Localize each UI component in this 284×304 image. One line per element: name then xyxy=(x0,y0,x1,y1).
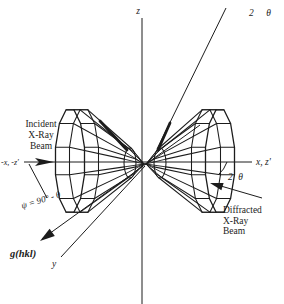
diffraction-diagram: z x, z' -x, -z' y 2 θ 2 θ ψ = 90° - θ g(… xyxy=(0,0,284,304)
z-axis-label: z xyxy=(135,6,140,16)
g-vector-arrowhead xyxy=(40,229,55,241)
diffracted-beam-cone xyxy=(146,110,235,212)
diffracted-beam-label-line-1: Diffracted xyxy=(223,205,262,215)
x-axis-negative-label: -x, -z' xyxy=(1,158,19,167)
diffracted-beam-label: Diffracted X-Ray Beam xyxy=(223,205,262,236)
incident-beam-label-line-1: Incident xyxy=(25,119,56,129)
x-axis-positive-label: x, z' xyxy=(255,157,272,167)
diffracted-beam-label-line-3: Beam xyxy=(223,226,246,236)
incident-beam-label-line-3: Beam xyxy=(30,141,53,151)
incident-beam-label-line-2: X-Ray xyxy=(28,130,54,140)
diffracted-beam-label-line-2: X-Ray xyxy=(223,216,249,226)
diffracted-beam-arrowhead xyxy=(210,183,224,190)
two-theta-top-label: 2 θ xyxy=(249,8,276,18)
two-theta-label: 2 θ xyxy=(228,172,244,182)
y-axis-label: y xyxy=(51,259,57,269)
diffraction-geometry-figure: z x, z' -x, -z' y 2 θ 2 θ ψ = 90° - θ g(… xyxy=(0,0,284,304)
g-vector-label: g(hkl) xyxy=(9,248,36,260)
incident-beam-label: Incident X-Ray Beam xyxy=(25,119,56,151)
psi-angle-label: ψ = 90° - θ xyxy=(20,189,62,211)
